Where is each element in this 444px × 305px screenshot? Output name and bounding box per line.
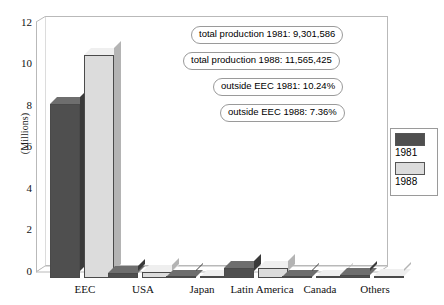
bar-group-eec: [50, 28, 116, 278]
annotation-outside-eec-1988: outside EEC 1988: 7.36%: [220, 104, 345, 122]
bar-front-face: [282, 276, 312, 278]
x-axis-label-japan: Japan: [189, 283, 214, 295]
y-tick-label-8: 8: [10, 100, 32, 111]
legend-swatch-1988: [395, 162, 425, 175]
y-tick-label-6: 6: [10, 141, 32, 152]
y-axis-line: [36, 22, 37, 272]
bar-others-1988: [374, 276, 404, 278]
y-tick-label-0: 0: [10, 266, 32, 277]
bar-top-face: [374, 269, 411, 276]
bar-others-1981: [340, 275, 370, 278]
y-tick-label-12: 12: [10, 17, 32, 28]
annotation-total-production-1988: total production 1988: 11,565,425: [183, 52, 340, 70]
bar-chart: (Millions) 12 10 8 6 4 2 0: [0, 0, 444, 305]
y-tick-label-2: 2: [10, 224, 32, 235]
bar-latin-america-1981: [224, 268, 254, 278]
legend-label-1981: 1981: [395, 147, 434, 158]
chart-left-wall: [36, 16, 46, 278]
annotation-total-production-1981: total production 1981: 9,301,586: [191, 26, 343, 44]
bar-group-usa: [108, 28, 174, 278]
x-axis-label-usa: USA: [132, 283, 154, 295]
bar-front-face: [224, 268, 254, 278]
bar-usa-1981: [108, 273, 138, 278]
bar-front-face: [108, 273, 138, 278]
x-axis-label-latin-america: Latin America: [230, 283, 293, 295]
bar-canada-1981: [282, 277, 312, 278]
legend-label-1988: 1988: [395, 176, 434, 187]
bar-japan-1981: [166, 277, 196, 278]
bar-front-face: [374, 276, 404, 278]
x-axis-label-canada: Canada: [304, 283, 337, 295]
bar-front-face: [340, 275, 370, 278]
x-axis-label-others: Others: [360, 283, 389, 295]
chart-legend: 1981 1988: [390, 128, 438, 196]
bar-front-face: [50, 104, 80, 278]
legend-swatch-1981: [395, 133, 425, 146]
annotation-outside-eec-1981: outside EEC 1981: 10.24%: [213, 78, 343, 96]
y-tick-label-10: 10: [10, 58, 32, 69]
y-tick-label-4: 4: [10, 183, 32, 194]
x-axis-label-eec: EEC: [75, 283, 96, 295]
bar-eec-1981: [50, 104, 80, 278]
bar-front-face: [166, 276, 196, 278]
